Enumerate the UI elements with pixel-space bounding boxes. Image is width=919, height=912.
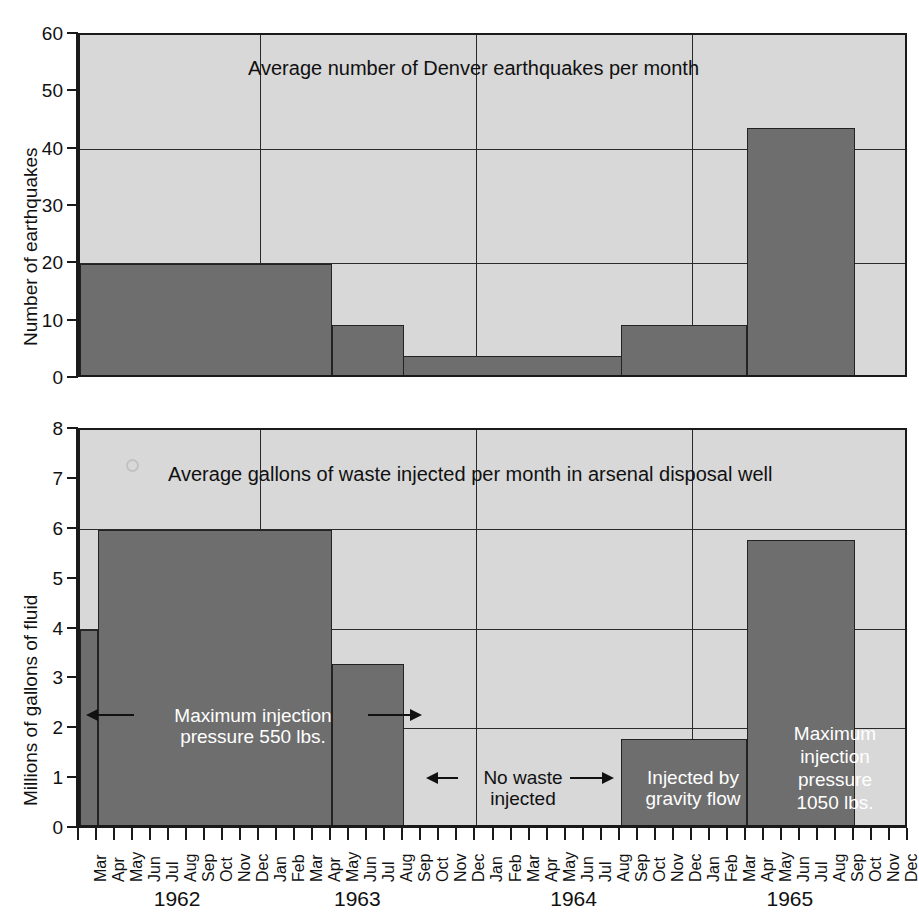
arrow-550-left-line (96, 714, 134, 716)
x-axis-tick (816, 828, 818, 840)
x-axis-tick (564, 828, 566, 840)
x-axis-month-label: Jul (598, 862, 614, 882)
x-axis-tick (455, 828, 457, 840)
arrow-550-right-head (410, 709, 422, 721)
bar-segment (80, 264, 332, 377)
x-axis-month-label: Jun (580, 856, 596, 882)
x-axis-month-label: Dec (688, 854, 704, 882)
x-axis-tick (293, 828, 295, 840)
y-axis-tick-label: 4 (52, 618, 63, 637)
gridline-year-boundary (476, 35, 477, 356)
x-axis-tick (437, 828, 439, 840)
arrow-nowaste-right-head (602, 772, 614, 784)
x-axis-tick (185, 828, 187, 840)
x-axis-tick (77, 828, 79, 840)
paper-smudge (126, 459, 139, 472)
x-axis-tick (383, 828, 385, 840)
x-axis-month-label: Apr (111, 857, 127, 882)
x-axis-tick (95, 828, 97, 840)
x-axis-tick (870, 828, 872, 840)
x-axis-month-label: May (345, 852, 361, 882)
y-axis-tick-label: 10 (42, 310, 63, 329)
x-axis-month-label: Dec (904, 854, 919, 882)
x-axis-tick (906, 828, 908, 840)
x-axis-tick (275, 828, 277, 840)
y-axis-tick-label: 20 (42, 253, 63, 272)
x-axis-tick (618, 828, 620, 840)
x-axis-tick (113, 828, 115, 840)
y-axis-tick-label: 40 (42, 138, 63, 157)
bar-segment (98, 530, 332, 827)
top-y-axis: 0102030405060 (52, 33, 78, 377)
x-axis-month-label: Aug (399, 854, 415, 882)
x-axis-tick (726, 828, 728, 840)
x-axis-tick (203, 828, 205, 840)
y-axis-tick-label: 50 (42, 81, 63, 100)
x-axis-tick (654, 828, 656, 840)
y-axis-tick-label: 8 (52, 419, 63, 438)
x-axis-month-label: May (129, 852, 145, 882)
x-axis-tick (582, 828, 584, 840)
x-axis-month-label: Jun (363, 856, 379, 882)
annotation-max-pressure-550: Maximum injection pressure 550 lbs. (128, 705, 378, 747)
y-axis-tick-label: 6 (52, 518, 63, 537)
x-axis-year-label: 1964 (550, 888, 597, 909)
y-axis-tick-label: 3 (52, 668, 63, 687)
x-axis-year-label: 1963 (334, 888, 381, 909)
x-axis-tick (834, 828, 836, 840)
x-axis-month-label: Aug (183, 854, 199, 882)
x-axis-month-label: Jul (165, 862, 181, 882)
x-axis-tick (329, 828, 331, 840)
x-axis-tick (708, 828, 710, 840)
x-axis-tick (365, 828, 367, 840)
x-axis-tick (744, 828, 746, 840)
x-axis-month-label: Sep (634, 854, 650, 882)
x-axis-tick (347, 828, 349, 840)
x-axis-tick (780, 828, 782, 840)
x-axis-year-label: 1965 (766, 888, 813, 909)
x-axis-month-label: Nov (886, 854, 902, 882)
x-axis-month-label: Jan (706, 856, 722, 882)
x-axis-month-label: Feb (508, 854, 524, 882)
x-axis-tick (492, 828, 494, 840)
x-axis-tick (473, 828, 475, 840)
x-axis-tick (798, 828, 800, 840)
x-axis-month-label: May (562, 852, 578, 882)
x-axis-month-label: Jun (796, 856, 812, 882)
x-axis-month-label: Aug (616, 854, 632, 882)
x-axis-month-label: Dec (471, 854, 487, 882)
x-axis-month-label: Nov (670, 854, 686, 882)
y-axis-tick-label: 7 (52, 468, 63, 487)
arrow-nowaste-left-line (436, 777, 458, 779)
x-axis-tick (546, 828, 548, 840)
x-axis-tick (672, 828, 674, 840)
top-plot-area (78, 33, 907, 377)
x-axis-month-label: Jul (381, 862, 397, 882)
x-axis-tick (401, 828, 403, 840)
y-axis-tick-label: 60 (42, 24, 63, 43)
x-axis-tick (888, 828, 890, 840)
bar-segment (332, 325, 404, 377)
x-axis-month-label: Jul (814, 862, 830, 882)
x-axis-baseline (78, 826, 907, 828)
x-axis-tick (690, 828, 692, 840)
x-axis-year-labels: 1962196319641965 (78, 888, 907, 912)
x-axis-month-label: Oct (219, 857, 235, 882)
x-axis-month-label: Feb (724, 854, 740, 882)
x-axis-month-label: Jan (489, 856, 505, 882)
x-axis-month-labels: MarAprMayJunJulAugSepOctNovDecJanFebMarA… (78, 842, 907, 884)
x-axis-month-label: Aug (832, 854, 848, 882)
x-axis-month-label: Apr (327, 857, 343, 882)
annotation-no-waste: No waste injected (457, 767, 589, 809)
x-axis-tick (149, 828, 151, 840)
y-axis-tick-label: 2 (52, 718, 63, 737)
bottom-y-axis: 012345678 (52, 428, 78, 827)
x-axis-month-label: Feb (291, 854, 307, 882)
x-axis-ticks (78, 828, 907, 840)
x-axis-month-label: Oct (652, 857, 668, 882)
bar-segment (747, 128, 855, 377)
x-axis-month-label: Sep (417, 854, 433, 882)
earthquake-injection-figure: Number of earthquakes 0102030405060 Aver… (0, 0, 919, 912)
x-axis-tick (167, 828, 169, 840)
x-axis-month-label: Mar (309, 854, 325, 882)
